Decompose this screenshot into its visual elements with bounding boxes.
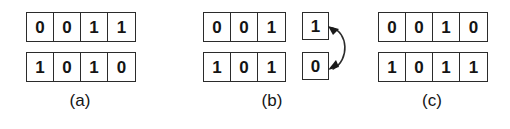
bit-cell: 1	[108, 13, 135, 41]
bit-cell: 0	[27, 13, 54, 41]
bit-cell: 0	[406, 13, 433, 41]
bit-cell: 1	[460, 53, 487, 81]
swap-double-arrow-icon	[322, 8, 356, 84]
bit-cell: 0	[231, 53, 258, 81]
bit-row-b-top: 0 0 1	[203, 12, 286, 42]
bit-cell: 0	[406, 53, 433, 81]
bit-cell: 1	[379, 53, 406, 81]
bit-cell: 1	[204, 53, 231, 81]
bit-cell: 1	[81, 53, 108, 81]
bit-row-c-top: 0 0 1 0	[378, 12, 488, 42]
bit-swap-diagram: 0 0 1 1 1 0 1 0 (a) 0 0 1 1 0 1 1 0	[0, 0, 510, 129]
bit-cell: 1	[433, 13, 460, 41]
bit-cell: 1	[27, 53, 54, 81]
bit-cell: 0	[54, 13, 81, 41]
bit-cell: 0	[379, 13, 406, 41]
bit-cell: 0	[54, 53, 81, 81]
bit-cell: 1	[258, 13, 285, 41]
bit-cell: 0	[204, 13, 231, 41]
bit-row-b-bottom: 1 0 1	[203, 52, 286, 82]
bit-row-a-top: 0 0 1 1	[26, 12, 136, 42]
bit-cell: 0	[460, 13, 487, 41]
panel-label-b: (b)	[252, 92, 292, 109]
bit-cell: 1	[433, 53, 460, 81]
bit-cell: 0	[108, 53, 135, 81]
bit-cell: 0	[231, 13, 258, 41]
bit-row-a-bottom: 1 0 1 0	[26, 52, 136, 82]
bit-cell: 1	[258, 53, 285, 81]
bit-cell: 1	[81, 13, 108, 41]
panel-label-a: (a)	[60, 92, 100, 109]
bit-row-c-bottom: 1 0 1 1	[378, 52, 488, 82]
panel-label-c: (c)	[412, 92, 452, 109]
